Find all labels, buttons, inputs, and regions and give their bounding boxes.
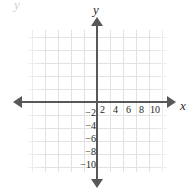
x-axis-line <box>18 101 171 103</box>
x-axis-left-arrowhead-icon <box>13 96 22 108</box>
y-tick-label: −6 <box>85 134 96 144</box>
x-tick-label: 6 <box>126 105 131 115</box>
x-tick-label: 4 <box>113 105 118 115</box>
y-tick-label: −4 <box>85 121 96 131</box>
x-tick-label: 8 <box>139 105 144 115</box>
y-axis-label: y <box>93 3 99 16</box>
coordinate-plane-figure: y y x 246810 −2−4−6−8−10 <box>0 0 196 191</box>
x-axis-right-arrowhead-icon <box>167 96 176 108</box>
y-tick-label: −10 <box>80 160 96 170</box>
y-axis-line <box>96 24 98 181</box>
x-axis-label: x <box>180 99 186 112</box>
x-tick-label: 2 <box>100 105 105 115</box>
y-axis-down-arrowhead-icon <box>91 179 103 188</box>
x-tick-label: 10 <box>150 105 160 115</box>
y-axis-up-arrowhead-icon <box>91 17 103 26</box>
scan-artifact-glyph: y <box>14 0 20 11</box>
y-tick-label: −8 <box>85 147 96 157</box>
y-tick-label: −2 <box>85 108 96 118</box>
